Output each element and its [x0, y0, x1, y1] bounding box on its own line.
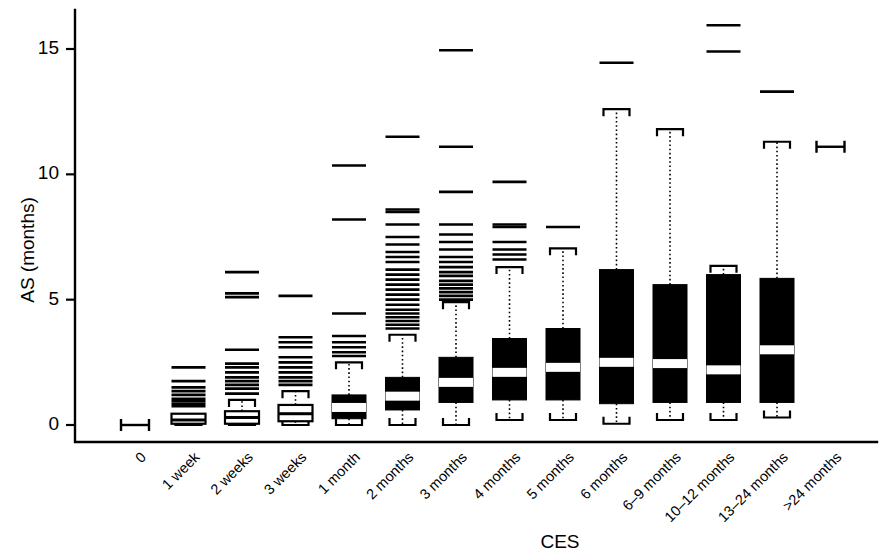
lower-whisker-cap [443, 418, 469, 425]
median-line [546, 363, 580, 372]
median-line [653, 359, 687, 368]
box-plot-item [760, 92, 794, 418]
median-line [707, 365, 741, 374]
box-plot-item [332, 166, 366, 425]
x-category-label: 5 months [524, 449, 577, 502]
box-body [600, 270, 634, 404]
median-line [386, 392, 420, 401]
box-plot-item [439, 50, 473, 425]
box-plot-item [653, 129, 687, 420]
box-plot-item [225, 272, 259, 425]
x-axis-title: CES [540, 531, 579, 552]
axis-lines [75, 10, 877, 442]
upper-whisker-cap [283, 391, 309, 398]
x-category-label: 3 months [417, 449, 470, 502]
x-category-label: 6 months [577, 449, 630, 502]
boxplot-svg: 051015 01 week2 weeks3 weeks1 month2 mon… [0, 0, 879, 555]
median-line [225, 416, 259, 419]
y-tick-label: 5 [48, 288, 59, 309]
x-category-label: 2 weeks [207, 449, 256, 498]
box-body [707, 275, 741, 403]
boxplot-figure: 051015 01 week2 weeks3 weeks1 month2 mon… [0, 0, 879, 555]
x-category-label: 1 month [315, 449, 363, 497]
median-line [493, 368, 527, 377]
y-tick-label: 10 [38, 162, 59, 183]
median-line [760, 345, 794, 354]
y-axis-title: AS (months) [17, 197, 38, 303]
y-tick-label: 15 [38, 37, 59, 58]
x-category-label: 2 months [363, 449, 416, 502]
median-line [172, 418, 206, 421]
box-group [121, 25, 845, 431]
box-plot-item [493, 182, 527, 420]
x-category-label: 4 months [470, 449, 523, 502]
y-tick-group: 051015 [38, 37, 75, 434]
box-plot-item [172, 367, 206, 425]
median-line [439, 378, 473, 387]
box-plot-item [279, 296, 313, 425]
x-category-label: 1 week [159, 448, 203, 492]
box-plot-item [817, 141, 845, 153]
box-body [653, 285, 687, 403]
box-plot-item [707, 25, 741, 420]
median-line [279, 412, 313, 415]
box-body [760, 278, 794, 402]
y-tick-label: 0 [48, 413, 59, 434]
median-line [332, 403, 366, 412]
box-plot-item [546, 227, 580, 420]
box-plot-item [600, 63, 634, 424]
median-line [600, 358, 634, 367]
x-category-label: 0 [132, 449, 149, 466]
axes-group [75, 10, 877, 442]
box-plot-item [386, 137, 420, 425]
x-label-group: 01 week2 weeks3 weeks1 month2 months3 mo… [132, 448, 845, 525]
x-category-label: 3 weeks [261, 449, 310, 498]
box-plot-item [121, 419, 149, 431]
